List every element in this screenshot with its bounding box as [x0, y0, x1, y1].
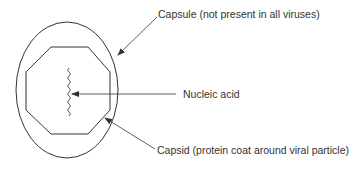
- nucleic-acid-wave: [68, 68, 71, 116]
- capsid-label: Capsid (protein coat around viral partic…: [157, 145, 349, 156]
- virus-structure-diagram: Capsule (not present in all viruses) Nuc…: [0, 0, 359, 169]
- capsule-arrow: [118, 17, 157, 55]
- capsule-ellipse: [16, 22, 118, 158]
- capsule-label: Capsule (not present in all viruses): [158, 9, 320, 20]
- capsid-octagon: [26, 47, 110, 134]
- capsid-arrow: [105, 118, 155, 149]
- nucleic-acid-label: Nucleic acid: [183, 89, 240, 100]
